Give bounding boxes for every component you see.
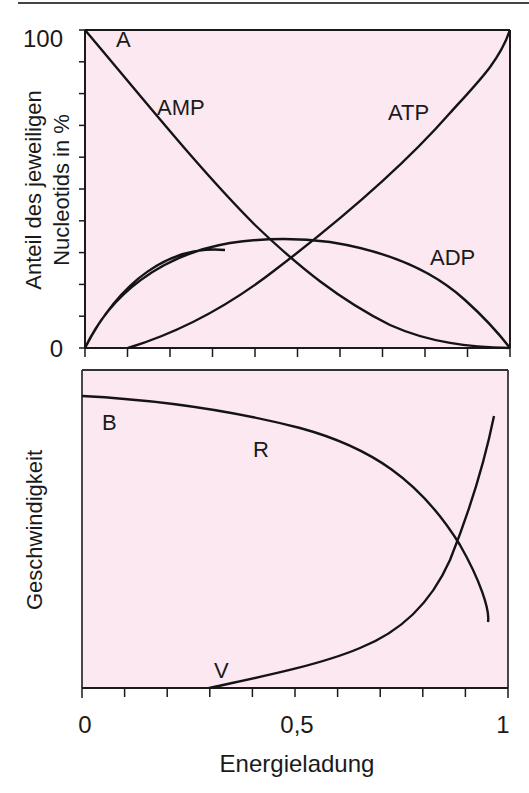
x-axis-label: Energieladung (220, 750, 375, 777)
y-axis-label-bottom: Geschwindigkeit (22, 450, 47, 610)
r-label: R (253, 437, 269, 462)
v-label: V (214, 658, 229, 683)
figure: A AMP ATP ADP 100 0 Anteil des jeweilige… (0, 0, 529, 793)
panel-a-plot-area (85, 30, 510, 348)
chart-svg: A AMP ATP ADP 100 0 Anteil des jeweilige… (0, 0, 529, 793)
y-tick-label-0: 0 (50, 335, 63, 362)
y-axis-label-line1: Anteil des jeweiligen (21, 90, 46, 289)
panel-a-x-ticks (85, 348, 510, 357)
x-tick-label-05: 0,5 (280, 711, 313, 738)
panel-b-plot-area (82, 370, 508, 688)
panel-b: B R V Geschwindigkeit 0 0,5 1 Energielad… (22, 370, 510, 777)
x-tick-label-1: 1 (496, 711, 509, 738)
panel-a: A AMP ATP ADP 100 0 Anteil des jeweilige… (21, 25, 510, 362)
panel-a-label: A (116, 27, 131, 52)
adp-label: ADP (430, 245, 475, 270)
panel-b-x-ticks (82, 688, 508, 698)
y-axis-label-line2: Nucleotids in % (49, 114, 74, 266)
panel-b-label: B (102, 410, 117, 435)
amp-label: AMP (157, 95, 205, 120)
x-tick-label-0: 0 (78, 711, 91, 738)
y-tick-label-100: 100 (23, 25, 63, 52)
atp-label: ATP (388, 100, 429, 125)
